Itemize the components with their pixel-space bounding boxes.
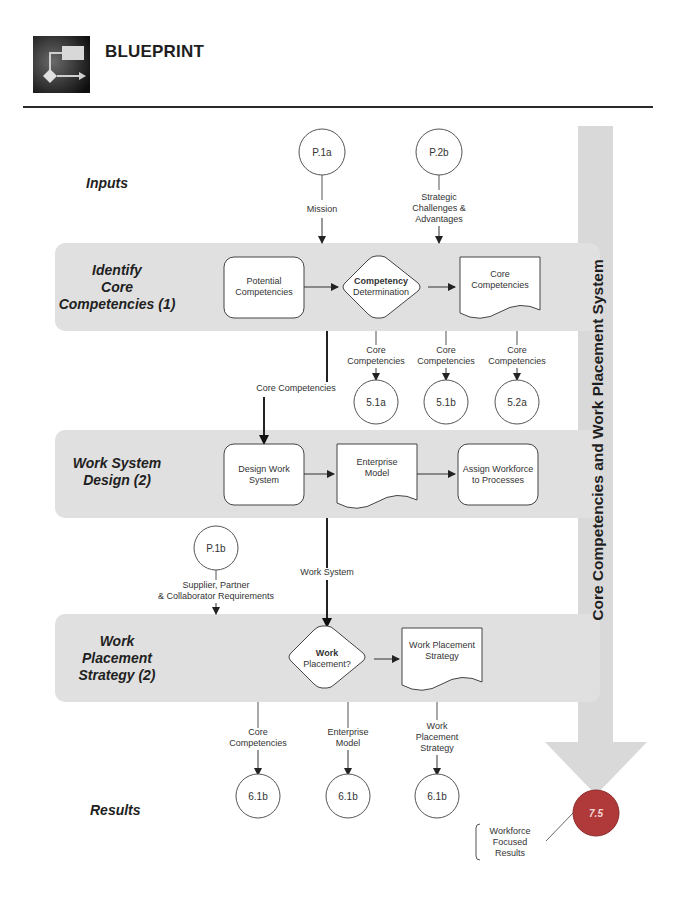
row-label-results: Results: [90, 802, 141, 818]
callout-bracket: [476, 824, 480, 860]
row-label-identify-2: Core: [101, 279, 133, 295]
flow-label-work-system: Work System: [300, 567, 353, 577]
flow-label-strategic-2: Challenges &: [412, 203, 466, 213]
out-label-1a: Core: [366, 345, 386, 355]
result-node-6-1b-core[interactable]: 6.1b: [236, 774, 280, 818]
svg-text:Design Work: Design Work: [238, 464, 290, 474]
svg-text:Strategy: Strategy: [425, 651, 459, 661]
row-label-placement-1: Work: [100, 633, 136, 649]
result-label-3c: Strategy: [420, 743, 454, 753]
final-node-7-5[interactable]: 7.5: [573, 790, 619, 836]
process-diagram: Core Competencies and Work Placement Sys…: [0, 0, 689, 904]
flow-label-supplier-1: Supplier, Partner: [182, 580, 249, 590]
result-label-3a: Work: [427, 721, 448, 731]
out-label-3a: Core: [507, 345, 527, 355]
flow-label-strategic-3: Advantages: [415, 214, 463, 224]
output-node-5-1a[interactable]: 5.1a: [354, 380, 398, 424]
callout-line-2: Focused: [493, 837, 528, 847]
row-label-identify-1: Identify: [92, 262, 143, 278]
svg-text:Assign Workforce: Assign Workforce: [463, 464, 533, 474]
result-node-6-1b-enterprise[interactable]: 6.1b: [326, 774, 370, 818]
svg-text:Determination: Determination: [353, 287, 409, 297]
svg-text:6.1b: 6.1b: [248, 791, 268, 802]
system-label: Core Competencies and Work Placement Sys…: [589, 259, 606, 621]
svg-text:Enterprise: Enterprise: [356, 457, 397, 467]
output-node-5-2a[interactable]: 5.2a: [495, 380, 539, 424]
svg-text:6.1b: 6.1b: [338, 791, 358, 802]
node-assign-workforce[interactable]: Assign Workforce to Processes: [458, 444, 538, 505]
svg-text:P.2b: P.2b: [429, 147, 449, 158]
svg-text:5.2a: 5.2a: [507, 397, 527, 408]
out-label-1b: Competencies: [347, 356, 405, 366]
flow-label-strategic-1: Strategic: [421, 192, 457, 202]
row-label-placement-3: Strategy (2): [78, 667, 155, 683]
out-label-3b: Competencies: [488, 356, 546, 366]
row-label-work-system-1: Work System: [73, 455, 161, 471]
output-node-5-1b[interactable]: 5.1b: [424, 380, 468, 424]
svg-text:Core: Core: [490, 269, 510, 279]
svg-text:Work Placement: Work Placement: [409, 640, 475, 650]
result-label-1a: Core: [248, 727, 268, 737]
svg-text:Competencies: Competencies: [471, 280, 529, 290]
input-node-p1a[interactable]: P.1a: [299, 129, 345, 175]
row-label-work-system-2: Design (2): [83, 472, 151, 488]
svg-text:6.1b: 6.1b: [427, 791, 447, 802]
node-potential-competencies[interactable]: Potential Competencies: [224, 257, 304, 318]
input-node-p2b[interactable]: P.2b: [416, 129, 462, 175]
svg-text:Placement?: Placement?: [303, 659, 351, 669]
row-label-identify-3: Competencies (1): [59, 296, 176, 312]
svg-text:Work: Work: [316, 648, 339, 658]
flow-label-supplier-2: & Collaborator Requirements: [158, 591, 275, 601]
svg-text:to Processes: to Processes: [472, 475, 525, 485]
svg-text:System: System: [249, 475, 279, 485]
svg-text:P.1b: P.1b: [206, 543, 226, 554]
result-node-6-1b-strategy[interactable]: 6.1b: [415, 774, 459, 818]
svg-text:Potential: Potential: [246, 276, 281, 286]
flow-label-core-competencies: Core Competencies: [256, 383, 336, 393]
callout-line-3: Results: [495, 848, 526, 858]
svg-text:7.5: 7.5: [589, 808, 603, 819]
callout-connector: [546, 813, 573, 841]
svg-text:P.1a: P.1a: [312, 147, 332, 158]
svg-text:5.1b: 5.1b: [436, 397, 456, 408]
result-label-2a: Enterprise: [327, 727, 368, 737]
svg-text:Model: Model: [365, 468, 390, 478]
row-label-placement-2: Placement: [82, 650, 153, 666]
out-label-2b: Competencies: [417, 356, 475, 366]
svg-text:Competencies: Competencies: [235, 287, 293, 297]
flow-label-mission: Mission: [307, 204, 338, 214]
callout-line-1: Workforce: [490, 826, 531, 836]
svg-text:Competency: Competency: [354, 276, 408, 286]
row-label-inputs: Inputs: [86, 175, 128, 191]
out-label-2a: Core: [436, 345, 456, 355]
input-node-p1b[interactable]: P.1b: [194, 526, 238, 570]
result-label-1b: Competencies: [229, 738, 287, 748]
svg-text:5.1a: 5.1a: [366, 397, 386, 408]
result-label-3b: Placement: [416, 732, 459, 742]
node-design-work-system[interactable]: Design Work System: [224, 444, 304, 505]
result-label-2b: Model: [336, 738, 361, 748]
